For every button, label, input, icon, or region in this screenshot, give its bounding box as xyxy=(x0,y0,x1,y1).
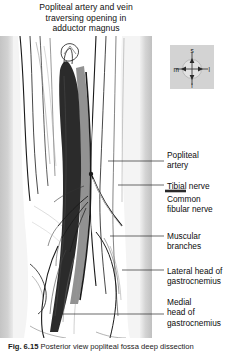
label-medial-head-gastrocnemius: Medialhead ofgastrocnemius xyxy=(167,297,221,328)
label-tibial-nerve: Tibial nerve xyxy=(167,181,210,191)
figure-caption-number: Fig. 6.15 xyxy=(8,342,38,351)
label-line: branches xyxy=(167,241,201,251)
anatomy-figure: Popliteal artery and vein traversing ope… xyxy=(0,0,238,351)
label-lateral-head-gastrocnemius: Lateral head ofgastrocnemius xyxy=(167,266,222,287)
label-line: gastrocnemius xyxy=(167,276,222,286)
label-line: head of xyxy=(167,307,221,317)
figure-caption-text: Posterior view popliteal fossa deep diss… xyxy=(41,342,194,351)
label-muscular-branches: Muscularbranches xyxy=(167,231,201,252)
label-line: Muscular xyxy=(167,231,201,241)
label-line: Common xyxy=(167,194,213,204)
label-line: Medial xyxy=(167,297,221,307)
label-line: artery xyxy=(167,160,199,170)
label-common-fibular-nerve: Commonfibular nerve xyxy=(167,194,213,215)
label-line: Tibial nerve xyxy=(167,181,210,191)
label-line: gastrocnemius xyxy=(167,318,221,328)
figure-caption: Fig. 6.15 Posterior view popliteal fossa… xyxy=(8,342,232,351)
label-popliteal-artery: Poplitealartery xyxy=(167,150,199,171)
label-line: Lateral head of xyxy=(167,266,222,276)
label-line: fibular nerve xyxy=(167,204,213,214)
label-line: Popliteal xyxy=(167,150,199,160)
